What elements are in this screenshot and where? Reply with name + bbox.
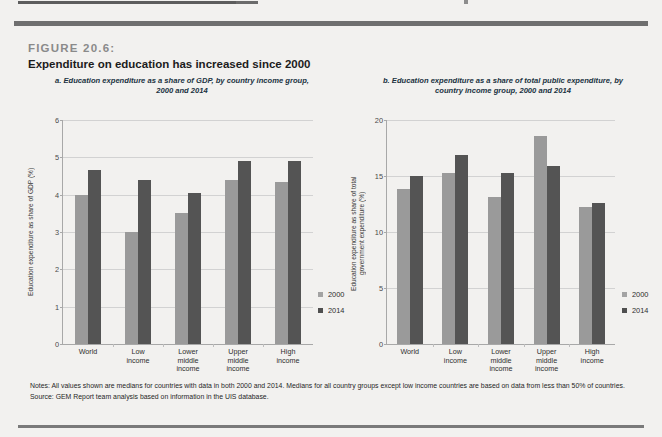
header-rule: [14, 21, 648, 26]
bar-group: [387, 120, 433, 344]
bar-2000[interactable]: [579, 207, 592, 344]
y-axis-tick-label: 5: [55, 153, 59, 162]
bar-2000[interactable]: [275, 182, 288, 344]
figure-notes: Notes: All values shown are medians for …: [30, 381, 638, 401]
y-axis-tick-label: 5: [379, 284, 383, 293]
x-axis-tick-label: World: [387, 344, 433, 374]
y-axis-tick-label: 4: [55, 190, 59, 199]
legend-item-2014[interactable]: 2014: [318, 306, 344, 315]
legend-swatch-2000-icon: [622, 292, 627, 297]
bar-group: [213, 120, 263, 344]
panel-b-plot-wrapper: Education expenditure as share of total …: [346, 76, 660, 376]
legend-item-2000[interactable]: 2000: [622, 290, 648, 299]
x-axis-tick-label: High income: [569, 344, 615, 374]
bar-group: [113, 120, 163, 344]
chart-panel-a: a. Education expenditure as a share of G…: [22, 76, 342, 376]
top-right-tick-mark: [464, 0, 468, 4]
top-rule-partial-inner: [18, 1, 236, 4]
bar-2014[interactable]: [88, 170, 101, 344]
y-axis-tick-label: 6: [55, 116, 59, 125]
bar-group: [478, 120, 524, 344]
x-axis-tick-label: Lower middle income: [163, 344, 213, 374]
source-text: Source: GEM Report team analysis based o…: [30, 392, 638, 402]
x-axis-tick-label: Low income: [433, 344, 479, 374]
chart-panel-b: b. Education expenditure as a share of t…: [346, 76, 660, 376]
bar-group: [263, 120, 313, 344]
legend-swatch-2000-icon: [318, 292, 323, 297]
bar-2000[interactable]: [488, 197, 501, 344]
panel-a-y-axis-label: Education expenditure as share of GDP (%…: [27, 122, 35, 342]
bar-group: [524, 120, 570, 344]
legend-item-2014[interactable]: 2014: [622, 306, 648, 315]
x-axis-tick-label: Upper middle income: [524, 344, 570, 374]
panel-b-plot-area: 05101520WorldLow incomeLower middle inco…: [386, 120, 615, 345]
bar-group: [433, 120, 479, 344]
bar-2014[interactable]: [288, 161, 301, 344]
x-axis-labels: WorldLow incomeLower middle incomeUpper …: [387, 344, 615, 374]
bar-groups: [63, 120, 313, 344]
footer-rule: [18, 425, 644, 428]
bar-2000[interactable]: [225, 180, 238, 344]
legend-label-2000: 2000: [632, 290, 648, 299]
bar-2014[interactable]: [410, 176, 423, 344]
y-axis-tick-label: 0: [55, 340, 59, 349]
bar-2014[interactable]: [138, 180, 151, 344]
panel-b-legend: 2000 2014: [622, 290, 648, 322]
figure-number: FIGURE 20.6:: [28, 42, 115, 54]
x-axis-tick-label: Lower middle income: [478, 344, 524, 374]
y-axis-tick-label: 15: [375, 172, 383, 181]
bar-2000[interactable]: [534, 136, 547, 344]
y-axis-tick-label: 20: [375, 116, 383, 125]
bar-2014[interactable]: [238, 161, 251, 344]
figure-title: Expenditure on education has increased s…: [28, 58, 311, 70]
legend-label-2000: 2000: [328, 290, 344, 299]
x-axis-tick-label: Low income: [113, 344, 163, 374]
y-axis-tick-label: 0: [379, 340, 383, 349]
legend-label-2014: 2014: [328, 306, 344, 315]
panel-a-legend: 2000 2014: [318, 290, 344, 322]
bar-group: [569, 120, 615, 344]
bar-group: [163, 120, 213, 344]
x-axis-tick-label: Upper middle income: [213, 344, 263, 374]
bar-2000[interactable]: [75, 195, 88, 344]
bar-groups: [387, 120, 615, 344]
notes-text: Notes: All values shown are medians for …: [30, 382, 625, 389]
bar-group: [63, 120, 113, 344]
x-axis-tick-label: High income: [263, 344, 313, 374]
bar-2014[interactable]: [455, 155, 468, 344]
bar-2000[interactable]: [442, 173, 455, 344]
bar-2000[interactable]: [125, 232, 138, 344]
y-axis-tick-label: 10: [375, 228, 383, 237]
y-axis-tick-label: 3: [55, 228, 59, 237]
bar-2014[interactable]: [592, 203, 605, 344]
panel-a-plot-wrapper: Education expenditure as share of GDP (%…: [22, 76, 342, 376]
bar-2000[interactable]: [175, 213, 188, 344]
bar-2014[interactable]: [547, 166, 560, 344]
y-axis-tick-label: 1: [55, 302, 59, 311]
legend-swatch-2014-icon: [318, 308, 323, 313]
bar-2014[interactable]: [501, 173, 514, 344]
legend-item-2000[interactable]: 2000: [318, 290, 344, 299]
panel-b-y-axis-label: Education expenditure as share of total …: [350, 116, 366, 351]
x-axis-tick-label: World: [63, 344, 113, 374]
figure-page: FIGURE 20.6: Expenditure on education ha…: [0, 0, 662, 437]
x-axis-labels: WorldLow incomeLower middle incomeUpper …: [63, 344, 313, 374]
legend-label-2014: 2014: [632, 306, 648, 315]
legend-swatch-2014-icon: [622, 308, 627, 313]
bar-2000[interactable]: [397, 189, 410, 344]
panel-a-plot-area: 0123456WorldLow incomeLower middle incom…: [62, 120, 313, 345]
y-axis-tick-label: 2: [55, 265, 59, 274]
bar-2014[interactable]: [188, 193, 201, 344]
